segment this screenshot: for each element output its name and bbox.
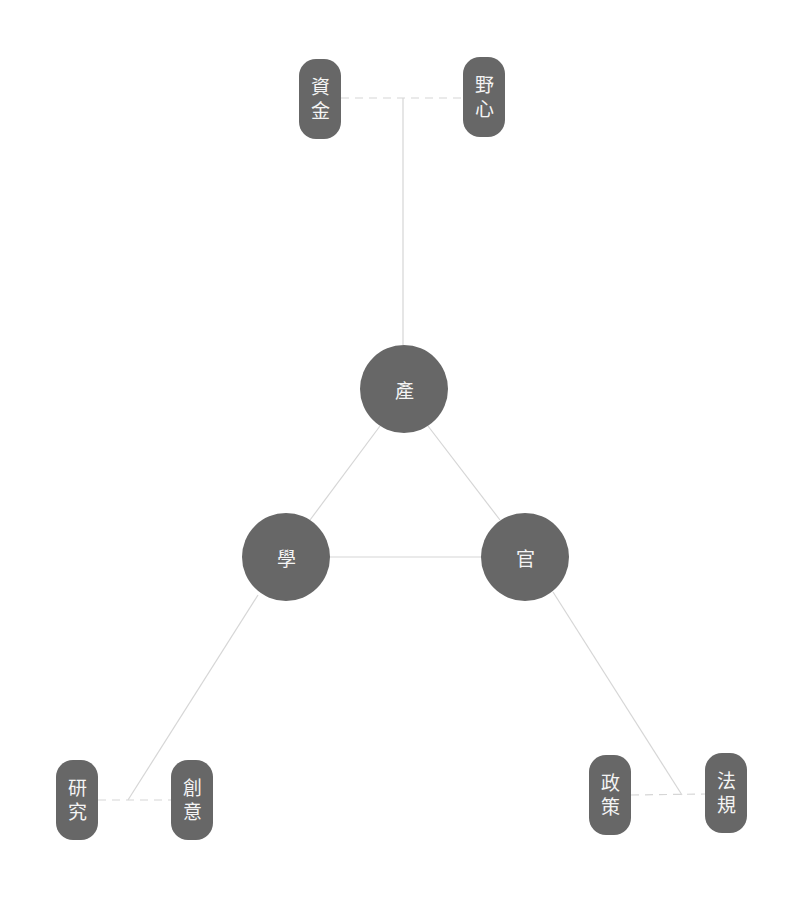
dashed-connector-line [631, 794, 705, 795]
leaf-research: 研 究 [56, 760, 98, 840]
leaf-ambition-char-2: 心 [475, 97, 494, 121]
hub-academia-label: 學 [277, 544, 296, 571]
leaf-ambition-char-1: 野 [475, 73, 494, 97]
hub-government: 官 [481, 513, 569, 601]
hub-government-label: 官 [516, 544, 535, 571]
leaf-regulation-char-2: 規 [717, 793, 736, 817]
leaf-creativity-char-1: 創 [183, 776, 202, 800]
leaf-research-char-1: 研 [68, 776, 87, 800]
hub-industry: 產 [360, 345, 448, 433]
connector-line [310, 426, 380, 520]
diagram-links [0, 0, 790, 904]
leaf-funding-char-1: 資 [311, 75, 330, 99]
leaf-funding: 資 金 [299, 59, 341, 139]
connector-line [428, 426, 500, 520]
leaf-ambition: 野 心 [463, 57, 505, 137]
hub-academia: 學 [242, 513, 330, 601]
leaf-creativity-char-2: 意 [183, 800, 202, 824]
leaf-policy: 政 策 [589, 755, 631, 835]
leaf-policy-char-1: 政 [601, 771, 620, 795]
leaf-regulation: 法 規 [705, 753, 747, 833]
leaf-regulation-char-1: 法 [717, 769, 736, 793]
hub-industry-label: 產 [395, 376, 414, 403]
leaf-research-char-2: 究 [68, 800, 87, 824]
leaf-funding-char-2: 金 [311, 99, 330, 123]
leaf-creativity: 創 意 [171, 760, 213, 840]
leaf-policy-char-2: 策 [601, 795, 620, 819]
